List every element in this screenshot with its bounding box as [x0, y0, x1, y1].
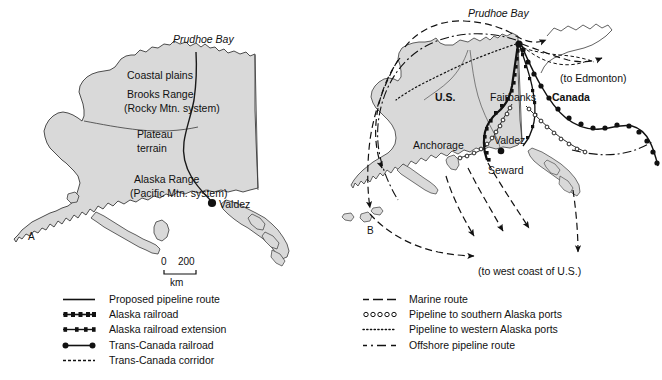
- legend-label-western-ports-pipeline: Pipeline to western Alaska ports: [409, 324, 558, 335]
- label-terrain-a: terrain: [137, 142, 167, 154]
- label-alaska-range-subtitle-a: (Pacific Mtn. system): [130, 187, 227, 199]
- legend-label-trans-canada-railroad: Trans-Canada railroad: [109, 340, 214, 351]
- small-island-a: [67, 192, 79, 203]
- legend-label-alaska-railroad-extension: Alaska railroad extension: [109, 324, 226, 335]
- label-coastal-plains-a: Coastal plains: [127, 69, 193, 81]
- alaska-pipeline-figure: Prudhoe Bay Coastal plains Brooks Range …: [0, 0, 662, 380]
- label-brooks-range-a: Brooks Range: [127, 88, 194, 100]
- legend-item-trans-canada-corridor: Trans-Canada corridor: [62, 353, 352, 368]
- panel-a-physiography-map: Prudhoe Bay Coastal plains Brooks Range …: [0, 0, 340, 290]
- legend-item-western-ports-pipeline: Pipeline to western Alaska ports: [362, 322, 662, 337]
- legend-symbol-dash-dot-dash-line-icon: [362, 292, 402, 307]
- trans-canada-railroad-dots-b: [520, 47, 659, 165]
- legend-label-trans-canada-corridor: Trans-Canada corridor: [109, 355, 214, 366]
- label-plateau-a: Plateau: [137, 128, 173, 140]
- legend-item-southern-ports-pipeline: Pipeline to southern Alaska ports: [362, 307, 662, 322]
- valdez-city-dot-b: [498, 148, 505, 155]
- panel-b-transport-routes-map: Prudhoe Bay U.S. Canada Fairbanks Valdez…: [340, 0, 662, 290]
- legend-column-right: Marine route Pipeline to southern Alaska…: [362, 292, 662, 353]
- label-to-west-coast-b: (to west coast of U.S.): [478, 265, 581, 277]
- scale-bar-line: [164, 270, 196, 274]
- legend-item-offshore-pipeline-route: Offshore pipeline route: [362, 338, 662, 353]
- legend-symbol-open-circle-line-icon: [362, 307, 402, 322]
- label-seward-b: Seward: [488, 164, 524, 176]
- panel-b-svg: Prudhoe Bay U.S. Canada Fairbanks Valdez…: [340, 0, 662, 290]
- label-valdez-a: Valdez: [219, 198, 250, 210]
- panel-letter-b: B: [367, 225, 374, 236]
- legend-symbol-solid-line-icon: [62, 292, 102, 307]
- panel-letter-a: A: [28, 231, 35, 242]
- marine-route-to-west-coast-b: [370, 214, 474, 256]
- label-to-edmonton-b: (to Edmonton): [560, 72, 627, 84]
- canada-coast-b: [541, 24, 612, 73]
- island-near-b-3: [371, 207, 383, 215]
- legend-symbol-dotted-line-icon: [362, 322, 402, 337]
- kodiak-island-a: [154, 220, 169, 241]
- scale-bar-units-label: km: [170, 277, 183, 288]
- label-alaska-range-a: Alaska Range: [134, 173, 200, 185]
- label-prudhoe-bay-b: Prudhoe Bay: [468, 7, 529, 19]
- scale-bar-start-label: 0: [161, 256, 167, 267]
- southern-ports-pipeline-branch-circles-b: [527, 107, 587, 154]
- label-brooks-range-subtitle-a: (Rocky Mtn. system): [124, 102, 220, 114]
- trans-canada-corridor-group-b: [522, 46, 594, 65]
- valdez-city-dot-a: [208, 199, 216, 207]
- legend-label-marine-route: Marine route: [409, 294, 468, 305]
- legend: Proposed pipeline route Alaska railroad: [0, 292, 662, 380]
- scale-bar-end-label: 200: [178, 256, 195, 267]
- legend-item-marine-route: Marine route: [362, 292, 662, 307]
- panel-a-svg: Prudhoe Bay Coastal plains Brooks Range …: [0, 0, 340, 290]
- legend-item-alaska-railroad-extension: Alaska railroad extension: [62, 322, 352, 337]
- legend-label-proposed-pipeline-route: Proposed pipeline route: [109, 294, 220, 305]
- alaska-peninsula-a: [91, 212, 160, 254]
- marine-route-fan-4-b: [573, 190, 578, 252]
- legend-label-offshore-pipeline-route: Offshore pipeline route: [409, 340, 515, 351]
- prudhoe-bay-hub-dot-b: [515, 40, 522, 47]
- marine-route-fan-2-b: [468, 168, 503, 231]
- legend-label-alaska-railroad: Alaska railroad: [109, 309, 178, 320]
- scale-bar-a: 0 200 km: [161, 256, 196, 288]
- label-country-canada-b: Canada: [552, 91, 590, 103]
- marine-route-fan-1-b: [446, 176, 474, 236]
- legend-item-proposed-pipeline-route: Proposed pipeline route: [62, 292, 352, 307]
- kodiak-island-b: [446, 155, 459, 170]
- legend-symbol-fine-dashed-line-icon: [62, 353, 102, 368]
- island-near-b-2: [342, 213, 354, 221]
- label-country-us-b: U.S.: [435, 91, 456, 103]
- alaska-peninsula-b: [397, 164, 438, 194]
- label-prudhoe-bay-a: Prudhoe Bay: [173, 33, 234, 45]
- island-near-b-1: [360, 212, 372, 222]
- label-valdez-b: Valdez: [494, 134, 525, 146]
- legend-column-left: Proposed pipeline route Alaska railroad: [62, 292, 352, 368]
- legend-symbol-dense-dot-line-icon: [62, 307, 102, 322]
- legend-symbol-sparse-dot-line-icon: [62, 322, 102, 337]
- legend-symbol-two-dot-line-icon: [62, 338, 102, 353]
- label-anchorage-b: Anchorage: [413, 139, 464, 151]
- legend-item-trans-canada-railroad: Trans-Canada railroad: [62, 338, 352, 353]
- marine-route-beaufort-b: [522, 44, 602, 62]
- legend-label-southern-ports-pipeline: Pipeline to southern Alaska ports: [409, 309, 562, 320]
- legend-symbol-dash-dot-line-icon: [362, 338, 402, 353]
- legend-item-alaska-railroad: Alaska railroad: [62, 307, 352, 322]
- label-fairbanks-b: Fairbanks: [490, 91, 536, 103]
